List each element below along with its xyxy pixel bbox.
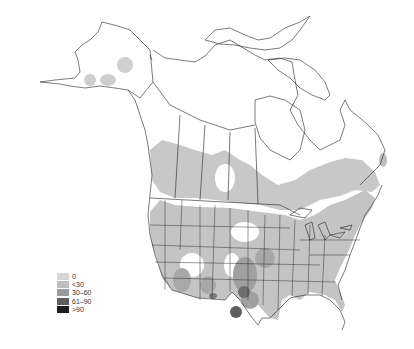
hudson-bay-outline [255,96,305,160]
shaded-regions [84,57,387,320]
medium-patch [173,268,191,292]
medium-patch [255,248,275,268]
legend-swatch-0 [57,273,69,280]
alaska-outline [40,22,153,98]
unshaded-patch [231,222,259,242]
alaska-patch [100,74,116,86]
legend-item-0: 0 [57,272,91,280]
legend-label: 0 [72,273,76,280]
legend-item-lt30: <30 [57,280,91,288]
dark-patch [230,306,242,318]
legend-swatch-61-90 [57,298,69,305]
arctic-islands-outline [205,16,310,50]
legend: 0 <30 30–60 61–90 >90 [57,272,91,314]
legend-label: <30 [72,281,84,288]
legend-swatch-30-60 [57,289,69,296]
legend-label: 30–60 [72,289,91,296]
gulf-coast [278,295,345,330]
alaska-patch [84,74,96,86]
unshaded-patch [215,164,235,192]
dark-patch [209,293,217,299]
legend-item-gt90: >90 [57,306,91,314]
canada-shaded-band [150,140,380,210]
legend-swatch-lt30 [57,281,69,288]
legend-item-30-60: 30–60 [57,289,91,297]
baffin-outline [268,58,330,100]
legend-item-61-90: 61–90 [57,297,91,305]
alaska-patch [117,57,133,73]
legend-label: 61–90 [72,298,91,305]
legend-swatch-gt90 [57,306,69,313]
legend-label: >90 [72,306,84,313]
